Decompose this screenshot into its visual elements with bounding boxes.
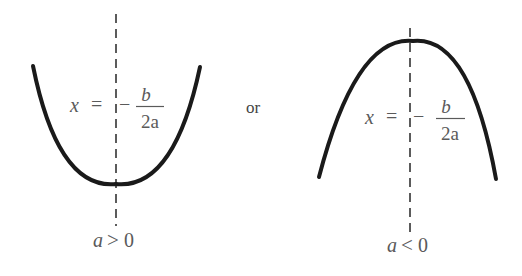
fraction-numerator: b	[141, 84, 151, 105]
fraction-denominator: 2a	[441, 123, 460, 144]
equation-var: x	[69, 94, 79, 116]
or-separator: or	[246, 98, 261, 117]
condition-right: a < 0	[387, 233, 428, 257]
condition-var: a	[93, 229, 103, 251]
equation-minus: −	[119, 93, 130, 115]
fraction-denominator: 2a	[141, 111, 160, 132]
condition-var: a	[387, 234, 397, 256]
condition-left: a > 0	[93, 228, 134, 252]
downward-parabola	[319, 41, 496, 179]
condition-relation: <	[401, 233, 413, 257]
condition-relation: >	[107, 228, 119, 252]
parabola-diagram: x = − b 2a a > 0 or x = − b 2a a < 0	[0, 0, 522, 276]
axis-equation-right: x = − b 2a	[364, 96, 465, 144]
equation-equals: =	[386, 105, 397, 127]
right-panel: x = − b 2a a < 0	[319, 28, 496, 257]
equation-minus: −	[413, 105, 424, 127]
equation-var: x	[364, 106, 374, 128]
condition-value: 0	[418, 234, 428, 256]
fraction-numerator: b	[441, 96, 451, 117]
left-panel: x = − b 2a a > 0	[33, 14, 200, 252]
condition-value: 0	[124, 229, 134, 251]
equation-equals: =	[91, 93, 102, 115]
